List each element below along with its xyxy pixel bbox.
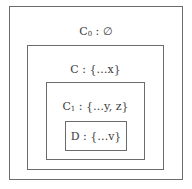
scope-vars: : {…v}	[79, 130, 121, 143]
scope-vars: : {…x}	[79, 63, 121, 76]
scope-label-c0: C0 : ∅	[10, 25, 182, 38]
scope-label-c: C : {…x}	[28, 63, 163, 76]
scope-label-c1: C1 : {…y, z}	[47, 100, 144, 113]
scope-label-d: D : {…v}	[66, 130, 126, 143]
scope-box-d: D : {…v}	[65, 121, 127, 151]
scope-vars: : {…y, z}	[75, 100, 128, 113]
scope-vars: : ∅	[92, 25, 113, 38]
scope-name: C	[62, 100, 70, 113]
scope-name: C	[70, 63, 78, 76]
scope-name: C	[79, 25, 87, 38]
